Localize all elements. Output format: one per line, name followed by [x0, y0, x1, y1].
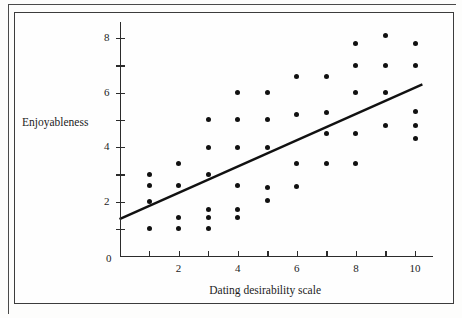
- data-point: [206, 215, 211, 220]
- y-tick: [116, 65, 125, 66]
- y-tick: [116, 229, 125, 230]
- x-axis-title: Dating desirability scale: [209, 284, 321, 296]
- data-point: [235, 90, 240, 95]
- y-tick: [116, 147, 125, 148]
- y-tick: [116, 120, 125, 121]
- x-tick: [267, 251, 268, 257]
- data-point: [294, 184, 299, 189]
- data-point: [265, 198, 270, 203]
- data-point: [413, 136, 418, 141]
- x-tick: [356, 251, 357, 257]
- x-tick: [326, 251, 327, 257]
- x-tick-label: 10: [395, 262, 435, 274]
- x-tick: [238, 251, 239, 257]
- data-point: [294, 74, 299, 79]
- data-point: [206, 207, 211, 212]
- x-tick-label: 4: [218, 262, 258, 274]
- data-point: [353, 63, 358, 68]
- y-axis-title: Enjoyableness: [22, 116, 88, 128]
- data-point: [413, 123, 418, 128]
- x-tick: [208, 251, 209, 257]
- data-point: [235, 207, 240, 212]
- data-point: [324, 161, 329, 166]
- data-point: [206, 117, 211, 122]
- regression-line: [120, 84, 423, 219]
- x-tick: [385, 251, 386, 257]
- data-point: [353, 90, 358, 95]
- x-tick-label: 2: [159, 262, 199, 274]
- data-point: [265, 185, 270, 190]
- data-point: [176, 161, 181, 166]
- data-point: [176, 226, 181, 231]
- data-point: [383, 123, 388, 128]
- data-point: [235, 145, 240, 150]
- data-point: [265, 145, 270, 150]
- data-point: [353, 161, 358, 166]
- x-tick: [415, 251, 416, 257]
- data-point: [324, 74, 329, 79]
- data-point: [147, 226, 152, 231]
- data-point: [413, 41, 418, 46]
- data-point: [235, 183, 240, 188]
- data-point: [206, 226, 211, 231]
- data-point: [294, 112, 299, 117]
- y-tick: [116, 174, 125, 175]
- data-point: [383, 33, 388, 38]
- x-tick-label: 8: [336, 262, 376, 274]
- data-point: [413, 63, 418, 68]
- data-point: [235, 215, 240, 220]
- x-tick-label: 6: [277, 262, 317, 274]
- data-point: [176, 183, 181, 188]
- data-point: [265, 90, 270, 95]
- data-point: [147, 183, 152, 188]
- y-tick: [116, 202, 125, 203]
- data-point: [353, 131, 358, 136]
- y-tick-label: 4: [86, 140, 110, 152]
- data-point: [324, 131, 329, 136]
- data-point: [176, 215, 181, 220]
- data-point: [383, 90, 388, 95]
- data-point: [235, 117, 240, 122]
- y-tick-label: 2: [86, 195, 110, 207]
- data-point: [353, 41, 358, 46]
- scatter-plot: 24681002468 Enjoyableness Dating desirab…: [0, 0, 462, 318]
- y-tick: [116, 93, 125, 94]
- origin-label: 0: [88, 252, 112, 264]
- figure-container: 24681002468 Enjoyableness Dating desirab…: [0, 0, 462, 318]
- data-point: [265, 117, 270, 122]
- data-point: [147, 199, 152, 204]
- data-point: [294, 161, 299, 166]
- x-tick: [297, 251, 298, 257]
- x-tick: [179, 251, 180, 257]
- data-point: [324, 110, 329, 115]
- data-point: [383, 63, 388, 68]
- data-point: [206, 145, 211, 150]
- x-tick: [149, 251, 150, 257]
- data-point: [147, 172, 152, 177]
- y-tick-label: 8: [86, 31, 110, 43]
- y-tick-label: 6: [86, 86, 110, 98]
- data-point: [413, 109, 418, 114]
- y-axis-line: [120, 22, 121, 256]
- data-point: [206, 172, 211, 177]
- y-tick: [116, 38, 125, 39]
